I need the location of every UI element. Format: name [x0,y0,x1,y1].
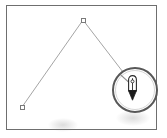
pen-nib-tip [129,91,137,100]
anchor-point-apex[interactable] [81,18,86,23]
pen-nib-icon [126,75,139,101]
path-segment-left[interactable] [22,20,83,107]
pen-nib-vent [131,80,134,83]
anchor-point-start[interactable] [20,105,25,110]
screenshot-root [0,0,167,138]
magnifier-callout [112,67,158,113]
